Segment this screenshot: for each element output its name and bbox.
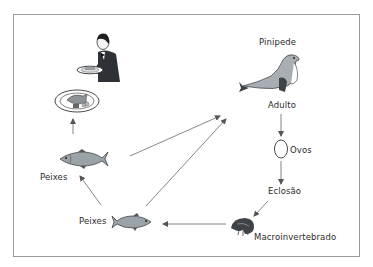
arrows-layer [0, 0, 373, 267]
label-peixes-bottom: Peixes [79, 216, 106, 226]
label-peixes-top: Peixes [40, 172, 67, 182]
egg-icon [273, 138, 289, 160]
label-adulto: Adulto [268, 100, 296, 110]
arrow-fish-bottom-to-fish-top [80, 176, 101, 205]
label-macroinvertebrado: Macroinvertebrado [254, 232, 336, 242]
seal-icon [239, 52, 305, 94]
arrow-hatching-to-macro [254, 201, 268, 216]
label-eclosao: Eclosão [268, 186, 301, 196]
fish-icon [111, 213, 153, 231]
arrow-fish-top-to-seal [130, 116, 220, 156]
label-pinipede: Pinipede [259, 37, 296, 47]
waiter-serving-dish-icon [76, 30, 128, 84]
fish-icon [58, 149, 110, 169]
macroinvertebrate-icon [229, 216, 257, 236]
arrow-fish-bottom-to-seal [146, 119, 226, 206]
fish-dish-plate-icon [53, 88, 101, 114]
label-ovos: Ovos [290, 145, 312, 155]
